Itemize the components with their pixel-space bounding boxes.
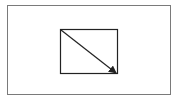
diagram-canvas	[0, 0, 181, 101]
diagonal-arrow	[61, 30, 116, 73]
